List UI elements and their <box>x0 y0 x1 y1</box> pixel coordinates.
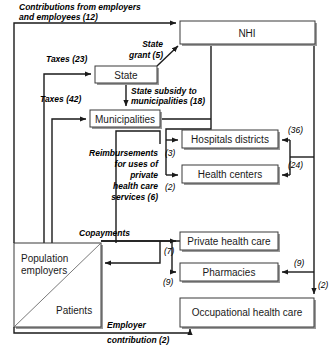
pharmacies-label: Pharmacies <box>203 267 256 278</box>
amount-centers-muni: (2) <box>165 182 176 192</box>
amount-private-copay: (7) <box>164 246 175 256</box>
node-health-centers[interactable]: Health centers <box>182 165 280 185</box>
employers-label: employers <box>21 265 67 276</box>
private-label: Private health care <box>187 236 271 247</box>
occ-label: Occupational health care <box>192 307 303 318</box>
amount-hospitals-nhi: (36) <box>288 125 303 135</box>
node-occupational-health-care[interactable]: Occupational health care <box>180 298 316 329</box>
label-copayments: Copayments <box>79 228 130 238</box>
label-reimbursements-line4: health care <box>113 181 158 191</box>
node-hospitals-districts[interactable]: Hospitals districts <box>182 130 280 150</box>
label-contributions-line2: and employees (12) <box>19 12 98 22</box>
label-state-grant-line1: State <box>142 39 163 49</box>
health-care-financing-diagram: NHI State Municipalities Hospitals distr… <box>0 0 334 349</box>
label-subsidy-line1: State subsidy to <box>131 86 197 96</box>
label-taxes-23: Taxes (23) <box>46 54 87 64</box>
amount-pharma-nhi: (9) <box>294 258 305 268</box>
node-pharmacies[interactable]: Pharmacies <box>180 263 280 283</box>
label-contributions-line1: Contributions from employers <box>19 2 141 12</box>
label-state-grant-line2: grant (5) <box>128 50 163 60</box>
node-population-patients[interactable]: Population employers Patients <box>14 243 103 329</box>
amount-centers-nhi: (24) <box>288 160 303 170</box>
label-reimbursements-line5: services (6) <box>111 192 158 202</box>
amount-pharma-copay: (9) <box>163 277 174 287</box>
state-label: State <box>114 70 138 81</box>
node-nhi[interactable]: NHI <box>180 21 317 46</box>
label-reimbursements-line3: private <box>129 170 158 180</box>
patients-label: Patients <box>56 305 92 316</box>
label-taxes-42: Taxes (42) <box>40 94 81 104</box>
node-municipalities[interactable]: Municipalities <box>90 110 162 129</box>
population-label: Population <box>21 253 68 264</box>
label-subsidy-line2: municipalities (18) <box>131 96 205 106</box>
amount-hospitals-muni: (3) <box>165 148 176 158</box>
label-employer-line1: Employer <box>107 320 146 330</box>
nhi-label: NHI <box>238 28 255 39</box>
health-centers-label: Health centers <box>198 169 262 180</box>
municipalities-label: Municipalities <box>95 114 155 125</box>
node-state[interactable]: State <box>95 66 159 85</box>
label-employer-line2: contribution (2) <box>107 335 169 345</box>
hospitals-label: Hospitals districts <box>191 134 269 145</box>
label-reimbursements-line2: for uses of <box>115 159 160 169</box>
node-private-health-care[interactable]: Private health care <box>180 232 280 252</box>
label-reimbursements-line1: Reimbursements <box>89 148 158 158</box>
amount-occ-nhi: (2) <box>318 280 329 290</box>
